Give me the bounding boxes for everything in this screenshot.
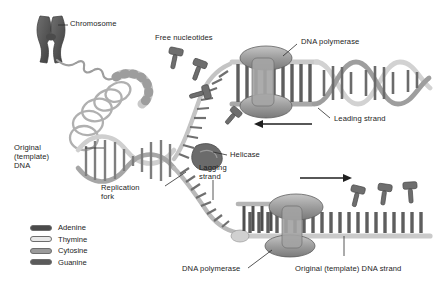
lagging-strand-dna [231,204,430,242]
solenoid-loops [70,78,134,150]
chromatin-uncoiling [57,60,116,79]
label-chromosome: Chromosome [70,19,117,28]
template-dna-helix [78,137,174,182]
label-dna-polymerase-top: DNA polymerase [301,37,359,46]
label-original-dna-line3: DNA [14,161,30,170]
label-original-template-strand: Original (template) DNA strand [295,264,401,273]
lagging-strand-arrow [300,174,352,182]
label-original-dna-line2: (template) [14,152,49,161]
legend-swatch-cytosine [30,248,52,254]
legend-label-adenine: Adenine [58,223,86,232]
legend-label-guanine: Guanine [58,258,87,267]
label-leading-strand: Leading strand [334,114,386,123]
label-replication-fork-line1: Replication [101,183,140,192]
label-helicase: Helicase [230,150,260,159]
legend-swatch-guanine [30,259,52,265]
base-legend: Adenine Thymine Cytosine Guanine [30,222,88,268]
label-free-nucleotides: Free nucleotides [155,33,213,42]
legend-swatch-thymine [30,236,52,242]
legend-item-cytosine: Cytosine [30,245,88,257]
legend-item-adenine: Adenine [30,222,88,234]
legend-label-thymine: Thymine [58,235,87,244]
label-replication-fork-line2: fork [101,192,114,201]
chromosome-icon [37,16,65,63]
leading-strand-arrow [254,120,312,128]
legend-item-thymine: Thymine [30,234,88,246]
legend-swatch-adenine [30,225,52,231]
label-lagging-strand-line1: Lagging [199,163,227,172]
legend-label-cytosine: Cytosine [58,246,88,255]
label-dna-polymerase-bottom: DNA polymerase [182,264,240,273]
label-original-dna-line1: Original [14,143,41,152]
dna-replication-figure: Chromosome Free nucleotides DNA polymera… [0,0,433,289]
label-lagging-strand-line2: strand [199,172,221,181]
legend-item-guanine: Guanine [30,257,88,269]
